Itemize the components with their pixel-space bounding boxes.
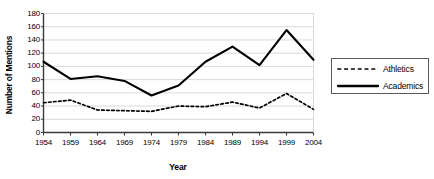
- x-axis-title: Year: [43, 162, 313, 172]
- legend-item-academics[interactable]: Academics: [332, 77, 430, 95]
- legend-swatch-dashed: [336, 60, 380, 78]
- legend-label: Academics: [383, 77, 423, 95]
- chart-figure: Number of Mentions 020406080100120140160…: [0, 0, 434, 179]
- chart-legend: AthleticsAcademics: [331, 58, 429, 94]
- legend-swatch-solid: [336, 77, 380, 95]
- legend-label: Athletics: [383, 60, 414, 78]
- legend-item-athletics[interactable]: Athletics: [332, 60, 430, 78]
- x-tick-label: 2004: [297, 138, 331, 147]
